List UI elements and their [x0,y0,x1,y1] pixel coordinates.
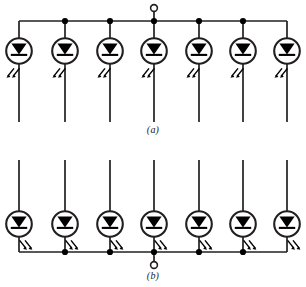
emission-arrows-b-7 [288,240,301,249]
panel-a-common-anode [6,5,300,122]
led-b-2 [52,211,78,237]
led-array-figure: (a) (b) [0,0,306,287]
led-a-4 [141,38,167,64]
led-row-a [6,38,300,64]
branch-leads-b [19,160,287,252]
emission-arrows-a-3 [97,68,110,77]
emission-arrows-a-7 [274,68,287,77]
led-a-6 [230,38,256,64]
led-a-1 [6,38,32,64]
emission-arrows-b-6 [244,240,257,249]
led-a-2 [52,38,78,64]
emission-arrows-b [20,240,301,249]
emission-arrows-a-2 [52,68,65,77]
emission-arrows-a [6,68,287,77]
emission-arrows-b-4 [155,240,168,249]
led-a-5 [186,38,212,64]
led-b-7 [274,211,300,237]
caption-b: (b) [0,270,306,281]
open-terminal-b [151,262,158,269]
emission-arrows-a-4 [141,68,154,77]
emission-arrows-b-2 [66,240,79,249]
led-b-6 [230,211,256,237]
emission-arrows-a-1 [6,68,19,77]
circuit-diagram-svg [0,0,306,287]
led-b-4 [141,211,167,237]
panel-b-common-cathode [6,160,300,268]
led-a-7 [274,38,300,64]
emission-arrows-b-3 [111,240,124,249]
branch-leads-a [19,21,287,122]
led-a-3 [97,38,123,64]
led-row-b [6,211,300,237]
led-b-1 [6,211,32,237]
open-terminal-a [151,5,158,12]
led-b-3 [97,211,123,237]
emission-arrows-b-5 [200,240,213,249]
emission-arrows-a-5 [186,68,199,77]
led-b-5 [186,211,212,237]
emission-arrows-b-1 [20,240,33,249]
emission-arrows-a-6 [230,68,243,77]
caption-a: (a) [0,124,306,135]
